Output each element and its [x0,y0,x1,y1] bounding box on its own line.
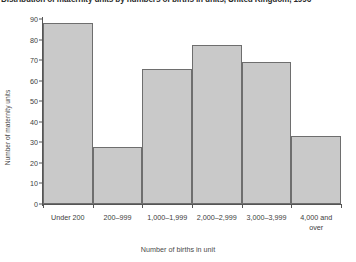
y-tickmark [39,19,43,20]
x-tick-label: 4,000 and over [283,213,349,232]
x-tickmark [242,204,243,208]
x-tickmark [291,204,292,208]
bar [242,62,292,204]
x-tickmark [142,204,143,208]
bar [192,45,242,204]
bar [93,147,143,204]
bar [291,136,341,204]
x-axis-title: Number of births in unit [0,245,356,254]
bar [142,69,192,204]
x-tickmark [341,204,342,208]
plot-area: 0102030405060708090 Under 200200–9991,00… [43,19,341,204]
y-axis-title: Number of maternity units [2,62,14,192]
y-axis-title-text: Number of maternity units [5,89,12,165]
chart-figure: Number of maternity units 01020304050607… [0,8,356,262]
x-tickmark [93,204,94,208]
x-tickmark [192,204,193,208]
chart-title: Distribution of maternity units by numbe… [0,0,356,4]
bar [43,23,93,204]
x-tickmark [43,204,44,208]
